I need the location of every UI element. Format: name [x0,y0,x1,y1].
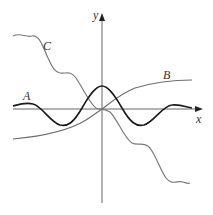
curve-b-label: B [163,68,171,82]
y-axis-arrow-icon [99,13,105,21]
curve-a [13,86,192,125]
curve-c-label: C [43,39,52,53]
curve-a-label: A [22,89,31,103]
graph-figure: y x A B C [0,0,213,215]
graph-canvas: y x A B C [0,0,213,215]
x-axis-label: x [195,112,202,126]
y-axis-label: y [92,8,99,22]
